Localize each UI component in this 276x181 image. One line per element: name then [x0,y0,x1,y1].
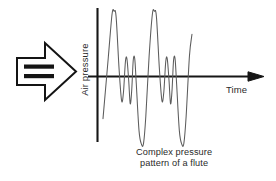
arrow-bar-upper [24,65,54,69]
flute-pressure-figure: Air pressure Time Complex pressure patte… [0,0,276,181]
sound-input-arrow [17,43,76,100]
x-axis-label: Time [226,84,247,95]
caption-line-1: Complex pressure [136,147,212,158]
x-axis-arrowhead [248,72,264,81]
figure-caption: Complex pressure pattern of a flute [136,147,212,169]
block-arrow-outline [17,43,76,100]
caption-line-2: pattern of a flute [136,158,212,169]
arrow-bar-lower [24,74,54,78]
waveform-path [103,9,192,146]
y-axis-label: Air pressure [79,35,90,105]
